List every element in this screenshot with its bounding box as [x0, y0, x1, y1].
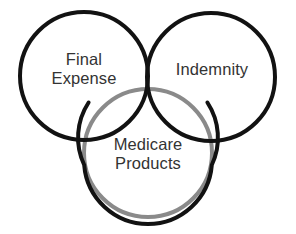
label-medicare-products: Medicare Products — [84, 135, 212, 174]
venn-diagram: Final Expense Indemnity Medicare Product… — [0, 0, 296, 234]
label-medicare-products-line-1: Medicare — [84, 135, 212, 154]
label-indemnity: Indemnity — [148, 60, 276, 79]
label-indemnity-line-1: Indemnity — [148, 60, 276, 79]
label-medicare-products-line-2: Products — [84, 154, 212, 173]
label-final-expense: Final Expense — [0, 50, 168, 89]
label-final-expense-line-1: Final — [0, 50, 168, 69]
venn-diagram-canvas — [0, 0, 296, 234]
label-final-expense-line-2: Expense — [0, 69, 168, 88]
